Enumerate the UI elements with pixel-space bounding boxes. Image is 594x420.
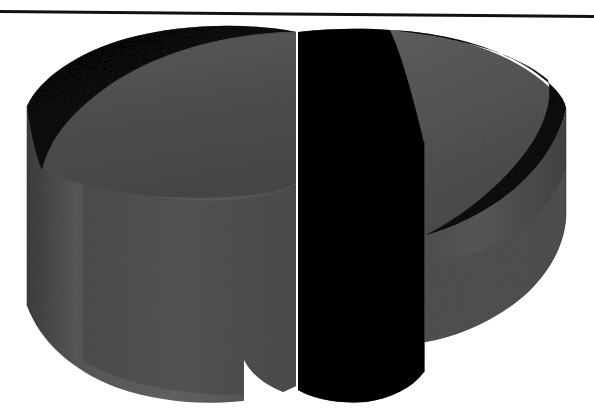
pie-slice-left[interactable] xyxy=(27,26,296,403)
pie-cut-face[interactable] xyxy=(298,29,424,403)
exploded-pie-chart-3d xyxy=(0,0,594,420)
figure-root xyxy=(0,0,594,420)
